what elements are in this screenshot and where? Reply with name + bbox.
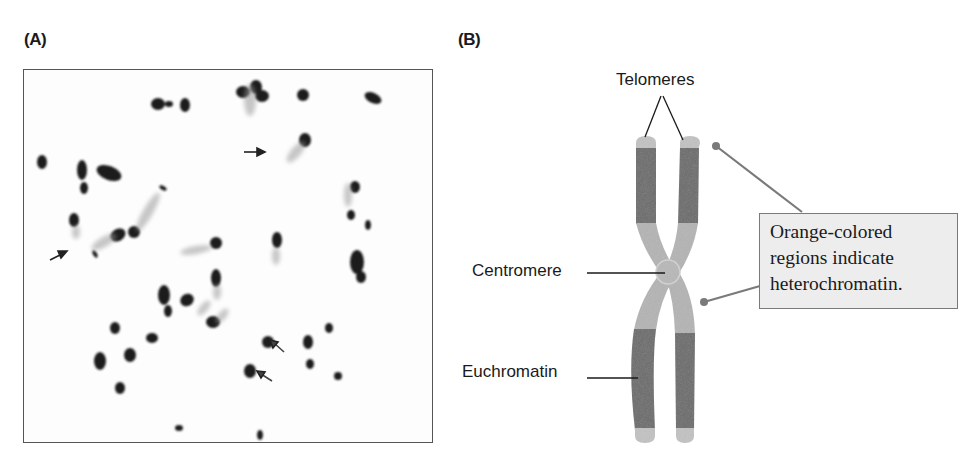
telomere-leader-lines: [645, 96, 683, 140]
callout-line-2: regions indicate: [770, 245, 949, 271]
right-upper-chromatid: [666, 136, 700, 275]
euchromatin-label: Euchromatin: [462, 362, 557, 382]
centromere-label: Centromere: [472, 261, 562, 281]
chromosome-micrograph: [23, 69, 433, 443]
telomeres-label: Telomeres: [616, 70, 694, 90]
callout-line-1: Orange-colored: [770, 219, 949, 245]
micrograph-image: [24, 70, 433, 443]
panel-a-label: (A): [24, 30, 46, 50]
left-upper-chromatid: [636, 136, 674, 275]
left-lower-chromatid: [631, 271, 674, 443]
callout-line-3: heterochromatin.: [770, 271, 949, 297]
right-lower-chromatid: [666, 271, 695, 443]
centromere-circle: [656, 260, 680, 284]
heterochromatin-callout: Orange-colored regions indicate heteroch…: [759, 213, 958, 309]
